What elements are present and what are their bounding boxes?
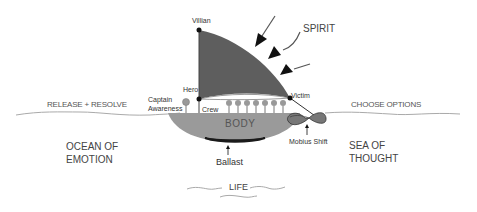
hero-node (197, 97, 202, 102)
water-line-left (16, 112, 180, 115)
mobius-label: Mobius Shift (289, 138, 328, 145)
ocean-label-line1: OCEAN OF (66, 141, 118, 153)
crew-label: Crew (202, 106, 218, 113)
mobius-icon (287, 113, 326, 125)
crew-icons (226, 100, 286, 113)
sea-label-line1: SEA OF (349, 140, 385, 152)
life-wave-left (187, 187, 222, 189)
life-label: LIFE (229, 183, 248, 192)
captain-label-line2: Awareness (148, 105, 183, 112)
villain-node (197, 28, 202, 33)
victim-label: Victim (291, 92, 310, 99)
captain-label-line1: Captain (148, 96, 172, 103)
life-wave-right (250, 187, 285, 190)
sail (199, 30, 290, 99)
ocean-label-line2: EMOTION (66, 154, 113, 166)
release-resolve-label: RELEASE + RESOLVE (47, 101, 127, 109)
water-line-right (325, 112, 460, 114)
captain-icon (183, 99, 190, 106)
spirit-label: SPIRIT (303, 24, 335, 34)
hero-label: Hero (183, 86, 198, 93)
sea-label-line2: THOUGHT (349, 153, 398, 165)
choose-options-label: CHOOSE OPTIONS (351, 101, 421, 109)
body-label: BODY (225, 119, 255, 129)
villain-label: Villian (192, 17, 211, 24)
life-wave-under (220, 195, 257, 197)
ballast-label: Ballast (216, 158, 243, 167)
